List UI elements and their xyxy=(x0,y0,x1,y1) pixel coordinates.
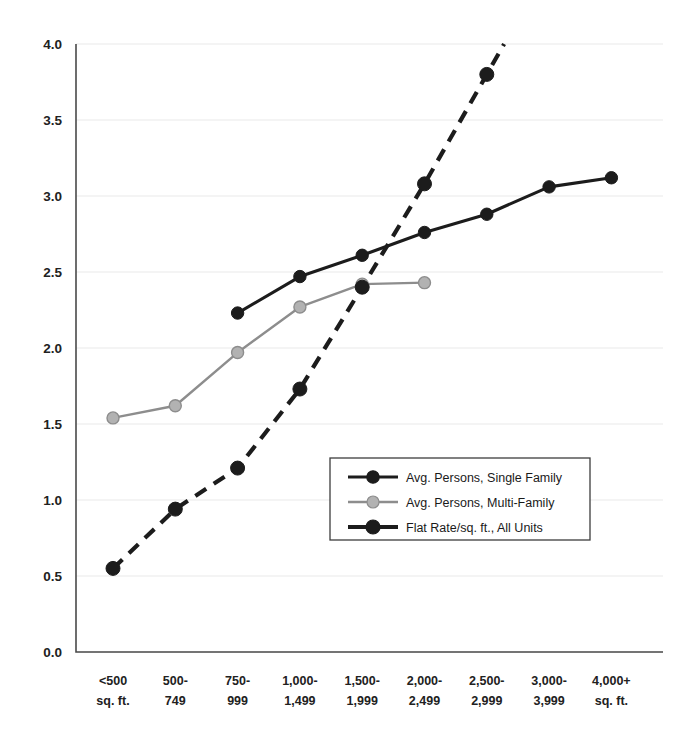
chart-legend: Avg. Persons, Single FamilyAvg. Persons,… xyxy=(330,458,590,540)
chart-background xyxy=(0,0,676,730)
x-axis-tick-label: sq. ft. xyxy=(595,694,628,708)
x-axis-tick-label: 1,000- xyxy=(282,674,317,688)
data-point xyxy=(419,277,431,289)
x-axis-tick-label: 3,999 xyxy=(533,694,564,708)
x-axis-tick-label: 3,000- xyxy=(531,674,566,688)
x-axis-tick-label: 2,500- xyxy=(469,674,504,688)
y-axis-tick-label: 2.5 xyxy=(43,265,62,280)
data-point xyxy=(294,301,306,313)
x-axis-tick-label: <500 xyxy=(99,674,127,688)
data-point xyxy=(418,226,430,238)
data-point xyxy=(480,67,494,81)
y-axis-tick-label: 4.0 xyxy=(43,37,62,52)
y-axis-tick-label: 0.5 xyxy=(43,569,62,584)
data-point xyxy=(605,172,617,184)
y-axis-tick-label: 3.0 xyxy=(43,189,62,204)
data-point xyxy=(418,177,432,191)
x-axis-tick-label: 1,500- xyxy=(344,674,379,688)
legend-marker-swatch xyxy=(367,471,379,483)
data-point xyxy=(169,400,181,412)
y-axis-tick-label: 1.0 xyxy=(43,493,62,508)
x-axis-tick-label: 750- xyxy=(225,674,250,688)
legend-label: Avg. Persons, Multi-Family xyxy=(406,496,555,510)
data-point xyxy=(481,208,493,220)
y-axis-tick-label: 2.0 xyxy=(43,341,62,356)
data-point xyxy=(107,412,119,424)
legend-marker-swatch xyxy=(366,520,380,534)
x-axis-tick-label: 1,499 xyxy=(284,694,315,708)
data-point xyxy=(356,249,368,261)
x-axis-tick-label: 2,999 xyxy=(471,694,502,708)
x-axis-tick-label: 4,000+ xyxy=(592,674,631,688)
y-axis-tick-label: 0.0 xyxy=(43,645,62,660)
x-axis-tick-label: 500- xyxy=(163,674,188,688)
y-axis-tick-label: 1.5 xyxy=(43,417,62,432)
data-point xyxy=(232,347,244,359)
data-point xyxy=(168,502,182,516)
data-point xyxy=(106,561,120,575)
legend-marker-swatch xyxy=(367,496,379,508)
legend-label: Avg. Persons, Single Family xyxy=(406,471,563,485)
data-point xyxy=(293,382,307,396)
data-point xyxy=(231,307,243,319)
line-chart: 0.00.51.01.52.02.53.03.54.0 <500sq. ft.5… xyxy=(0,0,676,730)
x-axis-tick-label: 2,499 xyxy=(409,694,440,708)
y-axis-tick-label: 3.5 xyxy=(43,113,62,128)
data-point xyxy=(231,461,245,475)
data-point xyxy=(543,181,555,193)
legend-label: Flat Rate/sq. ft., All Units xyxy=(406,521,543,535)
chart-container: 0.00.51.01.52.02.53.03.54.0 <500sq. ft.5… xyxy=(0,0,676,730)
data-point xyxy=(294,270,306,282)
data-point xyxy=(355,280,369,294)
x-axis-tick-label: 2,000- xyxy=(407,674,442,688)
x-axis-tick-label: 749 xyxy=(165,694,186,708)
x-axis-tick-label: 999 xyxy=(227,694,248,708)
x-axis-tick-label: sq. ft. xyxy=(96,694,129,708)
x-axis-tick-label: 1,999 xyxy=(347,694,378,708)
